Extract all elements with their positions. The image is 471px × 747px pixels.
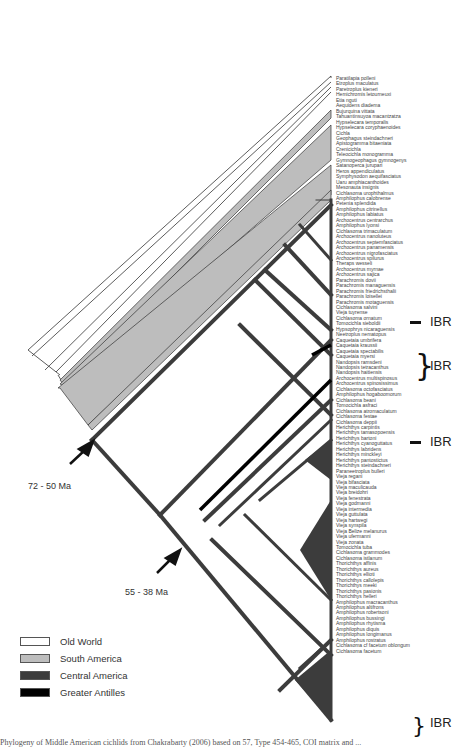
ibr-label-4: IBR (430, 715, 452, 730)
legend-item-greater-antilles: Greater Antilles (20, 684, 128, 701)
ibr-label-3: IBR (430, 434, 452, 449)
taxon-label: Cichlasoma facetum (336, 649, 456, 654)
age-label-55-38: 55 - 38 Ma (125, 587, 168, 597)
legend-label: South America (60, 653, 122, 664)
arrow-55-38 (157, 550, 180, 573)
legend-label: Greater Antilles (60, 687, 125, 698)
legend: Old World South America Central America … (20, 633, 128, 701)
legend-label: Central America (60, 670, 128, 681)
ibr-brace-4: } (412, 711, 426, 741)
legend-item-old-world: Old World (20, 633, 128, 650)
age-label-72-50: 72 - 50 Ma (28, 481, 71, 491)
ibr-label-1: IBR (430, 314, 452, 329)
legend-item-central-america: Central America (20, 667, 128, 684)
arrow-72-50 (70, 441, 93, 464)
swatch-south-america (20, 654, 50, 663)
legend-item-south-america: South America (20, 650, 128, 667)
ibr-label-2: IBR (430, 358, 452, 373)
amphilophus-clade-fill (295, 650, 331, 720)
legend-label: Old World (60, 636, 102, 647)
swatch-central-america (20, 671, 50, 680)
thorichthys-clade-fill (305, 440, 331, 480)
greater-antilles-branches (200, 345, 331, 510)
ibr-dash-3 (410, 441, 421, 444)
swatch-greater-antilles (20, 688, 50, 697)
swatch-old-world (20, 637, 50, 646)
figure-caption: Phylogeny of Middle American cichlids fr… (0, 738, 361, 747)
ibr-dash-1 (410, 321, 421, 324)
